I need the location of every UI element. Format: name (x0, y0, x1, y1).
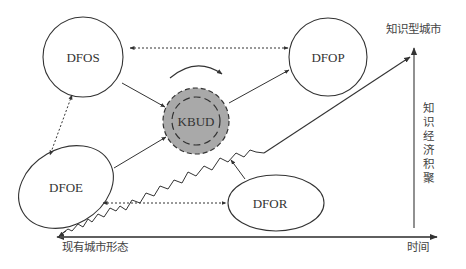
y-label-char: 知 (423, 101, 434, 115)
node-dfos: DFOS (43, 17, 123, 97)
node-dfos-label: DFOS (66, 50, 99, 65)
edge-dfor-path (231, 160, 245, 179)
node-dfop-label: DFOP (311, 50, 344, 65)
y-label-char: 积 (423, 157, 435, 171)
node-dfor: DFOR (228, 175, 324, 231)
node-dfoe: DFOE (4, 129, 129, 245)
zigzag-start-arrow (59, 231, 66, 236)
node-dfor-label: DFOR (253, 196, 288, 211)
y-axis-label-vertical: 知 识 经 济 积 聚 (423, 101, 435, 185)
x-axis-label-time: 时间 (407, 240, 429, 254)
y-label-char: 经 (423, 129, 435, 143)
edge-kbud-dfop (229, 70, 289, 103)
edge-dfos-kbud (122, 83, 165, 107)
node-kbud: KBUD (163, 88, 229, 154)
edge-dfoe-kbud (114, 137, 166, 168)
top-label-knowledge-city: 知识型城市 (386, 22, 441, 36)
rotation-arc (170, 66, 222, 78)
diagram-canvas: DFOS DFOP DFOE DFOR KBUD 知识型城市 现有城市形态 时间… (0, 0, 466, 269)
node-kbud-label: KBUD (178, 114, 215, 129)
y-label-char: 济 (423, 143, 435, 157)
node-dfoe-label: DFOE (49, 180, 83, 195)
node-dfop: DFOP (289, 18, 367, 96)
y-label-char: 聚 (423, 171, 435, 185)
origin-label-current-city: 现有城市形态 (62, 240, 129, 254)
y-label-char: 识 (423, 115, 434, 129)
